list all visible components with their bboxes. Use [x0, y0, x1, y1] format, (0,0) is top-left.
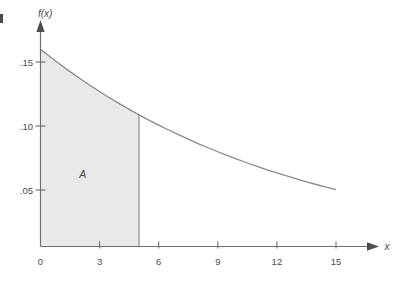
y-tick-label-005: .05	[20, 185, 33, 196]
region-label-A: A	[78, 168, 86, 180]
x-tick-label-12: 12	[272, 256, 283, 267]
y-axis-arrow-icon	[36, 20, 44, 32]
x-tick-label-0: 0	[38, 256, 43, 267]
y-tick-label-015: .15	[20, 57, 33, 68]
chart-figure: .15 .10 .05 0 3 6 9 12 15 f(x) x A	[0, 0, 403, 281]
x-axis-arrow-icon	[367, 242, 379, 251]
y-axis-title: f(x)	[38, 8, 52, 19]
x-axis-title: x	[384, 241, 391, 252]
y-tick-label-010: .10	[20, 121, 33, 132]
x-tick-label-15: 15	[331, 256, 342, 267]
x-tick-label-3: 3	[97, 256, 102, 267]
page-edge-artifact	[0, 14, 3, 23]
x-tick-label-6: 6	[156, 256, 161, 267]
shaded-region-A	[41, 49, 140, 246]
exponential-curve-plot: .15 .10 .05 0 3 6 9 12 15 f(x) x A	[0, 0, 403, 281]
x-tick-label-9: 9	[215, 256, 220, 267]
